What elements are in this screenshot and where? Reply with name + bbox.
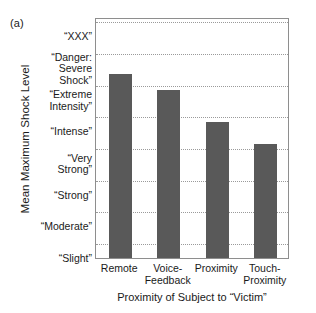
y-axis-tick-label: “Very Strong” <box>34 152 92 175</box>
bar <box>157 90 180 258</box>
x-axis-tick-label: Touch- Proximity <box>234 262 296 286</box>
y-axis-tick-label: “Slight” <box>34 253 92 265</box>
plot-area <box>95 18 289 259</box>
bar-chart-figure: (a) Mean Maximum Shock Level “Slight”“Mo… <box>0 0 316 313</box>
y-axis-tick-label: “Intense” <box>34 126 92 138</box>
y-axis-tick-label: “Danger: Severe Shock” <box>34 51 92 86</box>
bar <box>206 122 229 258</box>
x-axis-tick-labels: RemoteVoice- FeedbackProximityTouch- Pro… <box>95 262 289 290</box>
y-axis-title-container: Mean Maximum Shock Level <box>14 18 36 259</box>
y-axis-tick-label: “Extreme Intensity” <box>34 89 92 112</box>
x-axis-title: Proximity of Subject to “Victim” <box>95 291 289 303</box>
y-axis-tick-labels: “Slight”“Moderate”“Strong”“Very Strong”“… <box>34 18 92 259</box>
y-axis-tick-label: “Moderate” <box>34 222 92 234</box>
bar <box>109 74 132 258</box>
bar-series <box>96 19 288 258</box>
y-axis-tick-label: “XXX” <box>34 31 92 43</box>
y-axis-tick-label: “Strong” <box>34 190 92 202</box>
bar <box>254 144 277 258</box>
y-axis-title: Mean Maximum Shock Level <box>19 64 31 213</box>
